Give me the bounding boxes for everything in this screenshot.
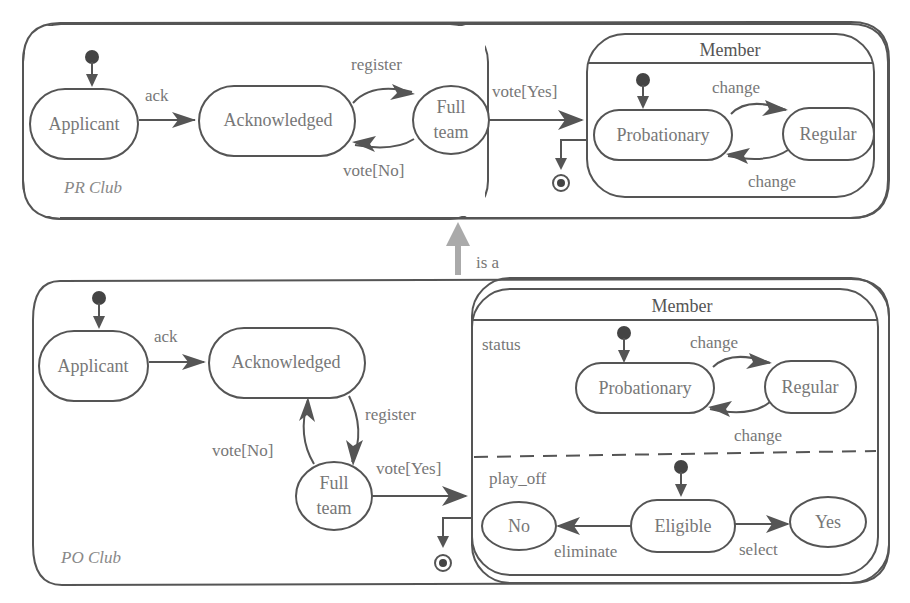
pr-state-full-team-line1: Full	[436, 97, 465, 117]
pr-transition-ack-label: ack	[145, 86, 169, 105]
po-member-title: Member	[652, 296, 713, 316]
pr-club-name: PR Club	[63, 178, 122, 197]
pr-state-full-team-line2: team	[434, 122, 469, 142]
po-state-full-team-line2: team	[317, 498, 352, 518]
pr-state-applicant-label: Applicant	[49, 114, 120, 134]
pr-state-regular-label: Regular	[800, 124, 857, 144]
arrowhead-icon	[746, 353, 772, 369]
po-region-play-off-label: play_off	[489, 469, 547, 488]
arrowhead-icon	[675, 484, 687, 497]
po-initial-state	[92, 291, 106, 305]
po-transition-vote-no-label: vote[No]	[212, 441, 273, 460]
po-state-regular-label: Regular	[782, 377, 839, 397]
pr-member-title: Member	[700, 40, 761, 60]
pr-transition-vote-no-label: vote[No]	[343, 161, 404, 180]
arrowhead-icon	[762, 100, 788, 116]
pr-transition-register-label: register	[351, 55, 402, 74]
po-transition-ack-label: ack	[154, 327, 178, 346]
region-divider	[474, 451, 876, 457]
pr-state-acknowledged-label: Acknowledged	[224, 110, 333, 130]
po-status-initial-state	[617, 326, 631, 340]
pr-transition-change-back-label: change	[748, 172, 796, 191]
arrowhead-icon	[637, 96, 649, 109]
po-transition-register-label: register	[365, 405, 416, 424]
po-transition-vote-yes-label: vote[Yes]	[376, 459, 441, 478]
po-transition-eliminate-label: eliminate	[554, 542, 617, 561]
pr-member-initial-state	[636, 73, 650, 87]
po-region-status-label: status	[482, 335, 521, 354]
po-club-name: PO Club	[60, 548, 121, 567]
pr-transition-vote-yes-label: vote[Yes]	[492, 82, 557, 101]
po-state-acknowledged-label: Acknowledged	[232, 352, 341, 372]
arrowhead-icon	[299, 397, 315, 422]
po-state-no-label: No	[508, 516, 530, 536]
statechart-diagram: PR Club Applicant ack Acknowledged regis…	[0, 0, 910, 603]
po-transition-change-forward-label: change	[690, 333, 738, 352]
arrowhead-icon	[618, 350, 630, 363]
arrowhead-icon	[346, 440, 363, 466]
po-state-eligible-label: Eligible	[655, 516, 712, 536]
generalization-arrowhead-icon	[446, 222, 470, 246]
po-state-probationary-label: Probationary	[599, 378, 692, 398]
pr-transition-change-forward-label: change	[712, 78, 760, 97]
po-state-full-team-line1: Full	[319, 473, 348, 493]
arrowhead-icon	[93, 316, 105, 329]
po-state-applicant-label: Applicant	[58, 356, 129, 376]
po-transition-change-back-label: change	[734, 426, 782, 445]
po-state-yes-label: Yes	[815, 512, 841, 532]
po-playoff-initial-state	[674, 460, 688, 474]
pr-state-probationary-label: Probationary	[617, 125, 710, 145]
arrowhead-icon	[555, 158, 567, 170]
po-transition-select-label: select	[739, 540, 778, 559]
is-a-label: is a	[476, 253, 500, 272]
pr-initial-state	[85, 50, 99, 64]
arrowhead-icon	[437, 536, 449, 548]
